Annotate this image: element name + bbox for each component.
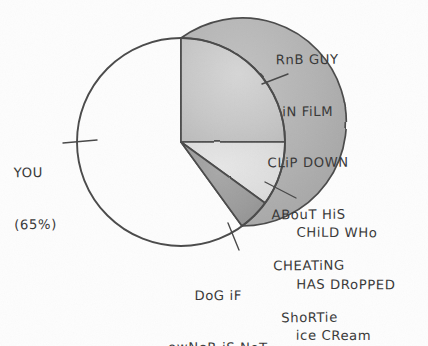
slice-label-child-line1: CHiLD WHo [296, 224, 395, 242]
slice-label-rnb-guy-line3: CLiP DOWN [267, 154, 348, 172]
slice-label-child-line2: HAS DRoPPED [296, 275, 395, 293]
slice-label-dog-line2: owNeR iS NoT [168, 339, 268, 346]
slice-label-dog-line1: DoG iF [168, 287, 268, 305]
slice-label-rnb-guy-line2: iN FiLM [267, 102, 348, 120]
pie-chart-figure: RnB GUY iN FiLM CLiP DOWN ABouT HiS CHEA… [0, 0, 428, 346]
slice-label-rnb-guy-line1: RnB GUY [267, 51, 348, 69]
slice-label-child-line3: ice CReam [296, 327, 395, 345]
slice-label-you-line1: YOU [14, 164, 57, 182]
slice-label-child-ice-cream: CHiLD WHo HAS DRoPPED ice CReam (10% [295, 190, 396, 346]
slice-percent-you: (65%) [14, 216, 57, 234]
slice-label-you: YOU (65%) [13, 130, 57, 268]
slice-label-dog-owner: DoG iF owNeR iS NoT HoME YeT (5%) [167, 253, 268, 346]
